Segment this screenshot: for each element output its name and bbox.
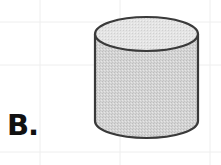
diagram-canvas: B. xyxy=(0,0,221,165)
cylinder-top xyxy=(95,17,198,51)
figure-label: B. xyxy=(7,109,38,141)
